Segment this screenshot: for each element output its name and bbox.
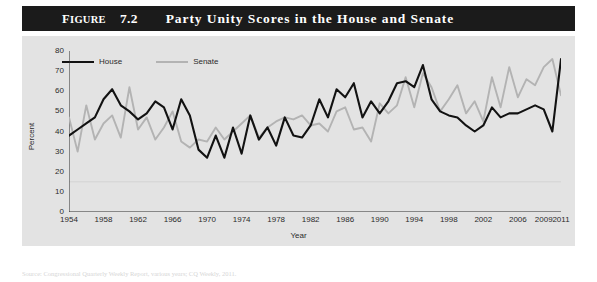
x-tick-label: 1954 [60,216,78,224]
x-tick-label: 2009 [535,216,553,224]
series-line-house [69,59,561,158]
y-axis-title: Percent [27,123,36,151]
x-tick-label: 1986 [336,216,354,224]
series-line-senate [69,59,561,152]
y-tick-label: 50 [46,107,64,115]
y-tick-label: 20 [46,168,64,176]
y-tick-label: 70 [46,67,64,75]
x-tick-label: 1970 [198,216,216,224]
x-tick-label: 2002 [474,216,492,224]
x-tick-label: 1982 [302,216,320,224]
y-tick-label: 80 [46,47,64,55]
x-tick-label: 1994 [405,216,423,224]
y-tick-label: 60 [46,87,64,95]
x-tick-label: 1962 [129,216,147,224]
chart-panel: House Senate 01020304050607080 Percent 1… [22,36,575,246]
chart-svg [69,51,561,212]
figure-label-prefix-rest: IGURE [70,14,106,25]
y-axis-tick-labels: 01020304050607080 [44,51,64,212]
figure-title-text: Party Unity Scores in the House and Sena… [166,11,454,26]
y-tick-label: 30 [46,148,64,156]
source-note: Source: Congressional Quarterly Weekly R… [22,270,575,280]
x-tick-label: 1990 [371,216,389,224]
figure-number: 7.2 [120,11,138,26]
x-tick-label: 1958 [95,216,113,224]
y-tick-label: 10 [46,188,64,196]
x-tick-label: 1966 [164,216,182,224]
x-tick-label: 1974 [233,216,251,224]
figure-title-bar: FIGURE7.2Party Unity Scores in the House… [22,6,575,31]
plot-area [69,51,561,212]
x-axis-title: Year [22,231,575,240]
x-tick-label: 2011 [552,216,569,224]
x-axis-tick-labels: 1954195819621966197019741978198219861990… [69,216,561,228]
x-tick-label: 1998 [440,216,458,224]
figure-container: FIGURE7.2Party Unity Scores in the House… [0,0,597,282]
y-tick-label: 40 [46,128,64,136]
x-tick-label: 2006 [509,216,527,224]
x-tick-label: 1978 [267,216,285,224]
figure-label-prefix: F [62,12,70,26]
